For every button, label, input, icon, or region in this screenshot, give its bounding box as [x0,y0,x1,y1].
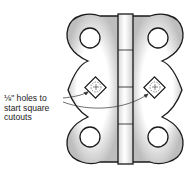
right-leaf [131,14,183,163]
callout-line-3: cutouts [4,113,49,123]
screw-hole-top-right [148,28,168,48]
center-knuckle [118,14,133,164]
screw-hole-bottom-left [80,127,100,147]
left-leaf [67,14,119,163]
screw-hole-bottom-right [148,127,168,147]
callout-label: ⅛" holes to start square cutouts [4,94,49,123]
hinge-diagram [0,0,191,173]
screw-hole-top-left [80,28,100,48]
